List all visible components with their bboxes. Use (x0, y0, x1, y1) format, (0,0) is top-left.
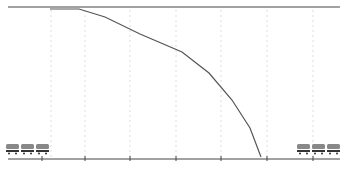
train-wheel-icon (8, 153, 10, 155)
train-car-base (297, 150, 310, 152)
train-wheel-icon (321, 153, 323, 155)
train-car-base (21, 150, 34, 152)
train-wheel-icon (336, 153, 338, 155)
train-wheel-icon (306, 153, 308, 155)
train-car-icon (36, 144, 49, 149)
train-wheel-icon (45, 153, 47, 155)
train-car-base (327, 150, 340, 152)
train-car-base (312, 150, 325, 152)
train-wheel-icon (23, 153, 25, 155)
train-car-base (6, 150, 19, 152)
train-car-icon (312, 144, 325, 149)
train-wheel-icon (299, 153, 301, 155)
train-wheel-icon (30, 153, 32, 155)
profile-curve (50, 9, 261, 157)
train-car-icon (327, 144, 340, 149)
train-wheel-icon (314, 153, 316, 155)
train-wheel-icon (15, 153, 17, 155)
train-car-icon (297, 144, 310, 149)
train-car-base (36, 150, 49, 152)
profile-diagram (0, 0, 346, 176)
diagram-canvas (0, 0, 346, 176)
train-wheel-icon (329, 153, 331, 155)
train-wheel-icon (38, 153, 40, 155)
train-car-icon (6, 144, 19, 149)
train-car-icon (21, 144, 34, 149)
